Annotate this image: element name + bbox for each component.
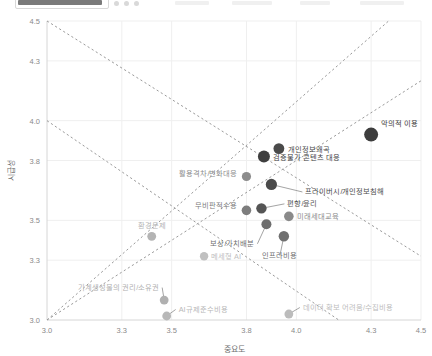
- toolbar-progress-bar: [18, 0, 102, 5]
- app-toolbar-strip: [0, 0, 432, 9]
- x-tick-label: 3.5: [166, 326, 176, 335]
- data-point[interactable]: [364, 128, 378, 142]
- toolbar-placeholder: [232, 1, 272, 5]
- data-point-label: 인프라비용: [262, 251, 297, 260]
- toolbar-placeholder: [300, 1, 330, 5]
- data-point[interactable]: [256, 203, 266, 213]
- y-tick-label: 4.3: [30, 57, 40, 66]
- data-point-label: 기계생성물의 권리/소유권: [78, 283, 159, 292]
- y-tick-label: 3.8: [30, 157, 40, 166]
- data-point-label: 데이터 확보 어려움/수집비용: [303, 303, 393, 312]
- data-point[interactable]: [284, 310, 293, 319]
- data-point[interactable]: [279, 231, 289, 241]
- data-point-label: 활용격차/변화대응: [179, 169, 237, 178]
- data-point[interactable]: [284, 212, 294, 222]
- data-point-label: 검증불가 콘텐츠 대응: [273, 153, 340, 162]
- toolbar-placeholder: [175, 1, 209, 5]
- scatter-chart: 악의적 이용개인정보왜곡검증불가 콘텐츠 대응활용격차/변화대응프라이버시/개인…: [0, 9, 432, 356]
- data-point[interactable]: [160, 296, 169, 305]
- data-point[interactable]: [266, 179, 277, 190]
- x-tick-label: 4.0: [291, 326, 301, 335]
- data-point[interactable]: [200, 252, 208, 260]
- data-point-label: 악의적 이용: [381, 119, 418, 128]
- data-points: [147, 128, 378, 321]
- toolbar-dot-icon[interactable]: [114, 1, 119, 6]
- y-tick-label: 3.3: [30, 256, 40, 265]
- data-point-label: 미래세대교육: [297, 212, 339, 221]
- data-point-label: 무비판적수용: [195, 201, 237, 210]
- y-tick-label: 3.5: [30, 216, 40, 225]
- toolbar-dot-icon[interactable]: [134, 1, 139, 6]
- data-point-label: 보상/가치배분: [210, 239, 254, 248]
- y-tick-label: 4.5: [30, 17, 40, 26]
- scatter-plot-container: 악의적 이용개인정보왜곡검증불가 콘텐츠 대응활용격차/변화대응프라이버시/개인…: [0, 9, 432, 356]
- data-point[interactable]: [162, 312, 171, 321]
- y-tick-label: 4.0: [30, 117, 40, 126]
- data-point[interactable]: [261, 219, 271, 229]
- x-tick-label: 3.3: [117, 326, 127, 335]
- data-point[interactable]: [258, 151, 270, 163]
- data-point-label: 프라이버시/개인정보침해: [305, 187, 384, 196]
- x-axis-title: 중요도: [224, 345, 245, 354]
- data-point-label: 메세형 AI: [211, 252, 241, 261]
- toolbar-placeholder: [360, 1, 404, 5]
- data-point-label: AI규제준수비용: [179, 305, 228, 314]
- x-tick-label: 4.5: [416, 326, 426, 335]
- data-point-label: 환경문제: [138, 221, 166, 230]
- data-point[interactable]: [242, 206, 252, 216]
- y-tick-label: 3.0: [30, 316, 40, 325]
- x-tick-label: 3.0: [42, 326, 52, 335]
- reference-line-descending-diagonal: [47, 21, 421, 256]
- data-point[interactable]: [147, 232, 156, 241]
- data-point-label: 편향/윤리: [287, 199, 317, 208]
- y-axis-title: 시급성: [7, 160, 16, 181]
- data-point-labels: 악의적 이용개인정보왜곡검증불가 콘텐츠 대응활용격차/변화대응프라이버시/개인…: [78, 119, 418, 314]
- data-point[interactable]: [242, 172, 251, 181]
- x-tick-label: 4.3: [366, 326, 376, 335]
- x-tick-label: 3.8: [241, 326, 251, 335]
- toolbar-dot-icon[interactable]: [124, 1, 129, 6]
